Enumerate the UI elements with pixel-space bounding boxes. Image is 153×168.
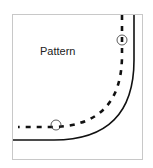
notch-marker-bottom-icon [51,120,61,130]
dashed-seam-curve [18,15,122,127]
pattern-diagram [0,0,153,168]
pattern-label: Pattern [40,45,75,57]
solid-corner-curve [13,15,134,140]
